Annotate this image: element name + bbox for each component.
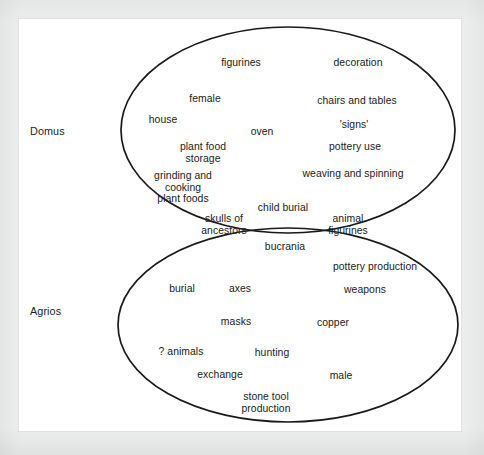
agrios-term: burial: [169, 283, 195, 295]
intersection-term: bucrania: [265, 241, 305, 253]
label-layer: Domus Agrios figurinesdecorationfemalech…: [0, 0, 484, 455]
set-label-domus: Domus: [30, 125, 65, 137]
domus-term: grinding andcookingplant foods: [154, 170, 212, 205]
agrios-term: stone toolproduction: [241, 391, 290, 414]
agrios-term: weapons: [344, 284, 386, 296]
domus-term: oven: [251, 126, 274, 138]
agrios-term: ? animals: [159, 346, 204, 358]
agrios-term: masks: [221, 316, 251, 328]
agrios-term: axes: [229, 283, 251, 295]
set-label-agrios: Agrios: [30, 305, 61, 317]
domus-term: pottery use: [329, 141, 381, 153]
agrios-term: exchange: [197, 369, 242, 381]
agrios-term: male: [330, 370, 353, 382]
intersection-term: animalfigurines: [328, 213, 368, 236]
intersection-term: skulls ofancestors: [201, 213, 247, 236]
domus-term: decoration: [333, 57, 382, 69]
domus-term: plant foodstorage: [180, 141, 226, 164]
domus-term: figurines: [221, 57, 261, 69]
domus-term: house: [149, 114, 178, 126]
domus-term: female: [189, 93, 221, 105]
agrios-term: pottery production: [333, 261, 417, 273]
domus-term: weaving and spinning: [303, 168, 404, 180]
venn-figure: Domus Agrios figurinesdecorationfemalech…: [0, 0, 484, 455]
intersection-term: child burial: [258, 202, 308, 214]
domus-term: chairs and tables: [317, 95, 396, 107]
agrios-term: copper: [317, 317, 349, 329]
agrios-term: hunting: [255, 347, 289, 359]
domus-term: 'signs': [340, 119, 369, 131]
